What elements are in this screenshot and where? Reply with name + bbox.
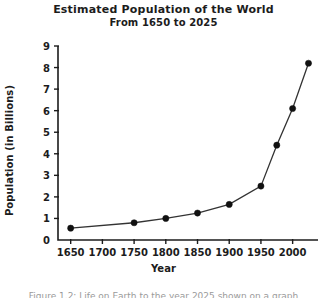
x-tick-label: 1650 [57, 247, 85, 258]
data-point-marker [290, 105, 296, 111]
x-tick-label: 1850 [184, 247, 212, 258]
x-tick-label: 1750 [120, 247, 148, 258]
figure-container: Estimated Population of the World From 1… [0, 0, 327, 298]
x-tick-label: 1800 [152, 247, 180, 258]
y-tick-label: 1 [34, 213, 50, 224]
y-tick-label: 0 [34, 235, 50, 246]
x-tick-label: 1950 [247, 247, 275, 258]
y-tick-label: 2 [34, 191, 50, 202]
y-tick-label: 7 [34, 84, 50, 95]
y-tick-label: 6 [34, 105, 50, 116]
x-tick-label: 2000 [279, 247, 307, 258]
data-point-marker [274, 142, 280, 148]
y-tick-label: 3 [34, 170, 50, 181]
data-line [71, 63, 309, 228]
data-point-marker [163, 215, 169, 221]
data-point-marker [305, 60, 311, 66]
plot-area: 0123456789165017001750180018501900195020… [0, 0, 327, 298]
y-tick-label: 8 [34, 62, 50, 73]
data-point-marker [68, 225, 74, 231]
data-point-marker [226, 201, 232, 207]
figure-caption: Figure 1.2: Life on Earth to the year 20… [0, 291, 327, 298]
y-tick-label: 9 [34, 41, 50, 52]
data-point-marker [194, 210, 200, 216]
y-tick-label: 5 [34, 127, 50, 138]
x-tick-label: 1900 [215, 247, 243, 258]
x-tick-label: 1700 [88, 247, 116, 258]
data-point-marker [131, 220, 137, 226]
y-tick-label: 4 [34, 148, 50, 159]
data-point-marker [258, 183, 264, 189]
